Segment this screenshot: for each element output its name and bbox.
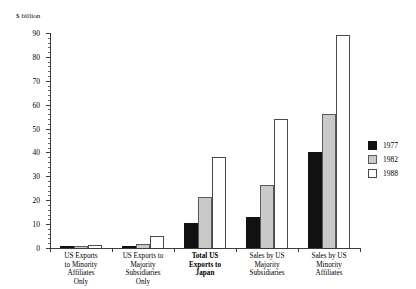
bar-group-bars [298,33,360,248]
legend-swatch-1988 [368,169,377,178]
legend-item-1977: 1977 [368,139,398,151]
bar-1982-1 [74,246,88,248]
legend-item-1982: 1982 [368,153,398,165]
bar-1982-4 [260,185,274,248]
y-axis-unit-label: $ billion [16,12,40,20]
bar-group-bars [112,33,174,248]
chart-legend: 197719821988 [368,139,398,181]
y-axis-tick-label: 40 [33,148,41,157]
bar-1977-4 [246,217,260,248]
bar-group [112,33,174,248]
y-axis-tick-label: 80 [33,52,41,61]
y-axis-tick-label: 20 [33,196,41,205]
x-axis-line [50,248,360,249]
x-axis-category-label: US Exports to Majority Subsidiaries Only [112,252,174,286]
y-axis-tick-label: 30 [33,172,41,181]
legend-label-1988: 1988 [383,169,398,178]
x-axis-category-label: Sales by US Minority Affiliates [298,252,360,278]
x-axis-category-label: Sales by US Majority Subsidiaries [236,252,298,278]
y-axis-tick-label: 90 [33,29,41,38]
bar-1982-2 [136,244,150,248]
legend-swatch-1982 [368,155,377,164]
bar-1982-5 [322,114,336,248]
bar-group-bars [236,33,298,248]
y-axis-tick-label: 60 [33,100,41,109]
bar-1977-1 [60,246,74,248]
bar-1988-4 [274,119,288,248]
x-axis-category-label: Total US Exports to Japan [174,252,236,278]
bar-group-bars [50,33,112,248]
bar-group [174,33,236,248]
bar-1982-3 [198,197,212,248]
legend-label-1982: 1982 [383,155,398,164]
bar-group [236,33,298,248]
y-axis-tick-label: 10 [33,220,41,229]
y-axis-tick-label: 0 [36,244,40,253]
bar-1977-2 [122,246,136,248]
bar-1977-3 [184,223,198,248]
bar-chart: $ billion 0102030405060708090 US Exports… [0,0,416,289]
plot-area: 0102030405060708090 [50,33,360,248]
legend-item-1988: 1988 [368,167,398,179]
bar-1988-1 [88,245,102,248]
y-axis-tick-label: 50 [33,124,41,133]
bar-1988-3 [212,157,226,248]
bar-group [298,33,360,248]
bar-group [50,33,112,248]
y-axis-tick-label: 70 [33,76,41,85]
bar-1988-2 [150,236,164,248]
legend-swatch-1977 [368,141,377,150]
bar-group-bars [174,33,236,248]
x-axis-group-tick [360,248,361,252]
x-axis-category-label: US Exports to Minority Affiliates Only [50,252,112,286]
bar-1977-5 [308,152,322,248]
legend-label-1977: 1977 [383,141,398,150]
bar-1988-5 [336,35,350,248]
